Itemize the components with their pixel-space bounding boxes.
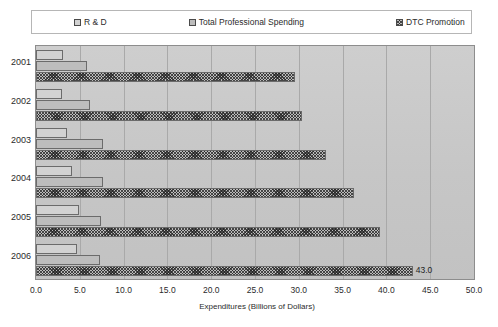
y-axis-tick-2006: 2006 [0,251,31,261]
bar-group-2003 [36,128,474,161]
y-axis-tick-2001: 2001 [0,57,31,67]
y-axis-tick-2004: 2004 [0,173,31,183]
x-axis-tick-10.0: 10.0 [115,285,132,295]
bar-2004-series-2[interactable] [36,177,103,187]
x-axis-tick-0.0: 0.0 [30,285,42,295]
x-axis-tick-40.0: 40.0 [378,285,395,295]
x-axis-title-text: Expenditures (Billions of Dollars) [199,302,315,311]
bar-2002-series-1[interactable] [36,89,62,99]
bar-2003-series-1[interactable] [36,128,67,138]
x-axis-tick-15.0: 15.0 [159,285,176,295]
legend-item-r-and-d[interactable]: R & D [74,17,107,27]
bar-2004-series-3[interactable] [36,188,354,198]
legend-item-dtc-promotion[interactable]: DTC Promotion [396,17,465,27]
x-axis-tick-30.0: 30.0 [291,285,308,295]
legend-swatch-icon-r-and-d [74,19,81,26]
x-axis-title: Expenditures (Billions of Dollars) [0,302,498,311]
bar-chart: R & D Total Professional Spending DTC Pr… [0,0,498,327]
bar-group-2006: 43.0 [36,244,474,277]
bar-group-2004 [36,166,474,199]
bar-2005-series-2[interactable] [36,216,101,226]
bar-2003-series-2[interactable] [36,139,103,149]
gridline [474,46,475,279]
x-axis-tick-35.0: 35.0 [334,285,351,295]
bar-2002-series-3[interactable] [36,111,302,121]
legend-swatch-icon-total-professional-spending [189,19,196,26]
y-axis: 200120022003200420052006 [0,45,31,280]
x-axis-tick-5.0: 5.0 [74,285,86,295]
y-axis-tick-2002: 2002 [0,96,31,106]
x-axis-tick-20.0: 20.0 [203,285,220,295]
bar-group-2001 [36,50,474,83]
bar-2006-series-2[interactable] [36,255,100,265]
legend-item-total-professional-spending[interactable]: Total Professional Spending [189,17,304,27]
bar-2002-series-2[interactable] [36,100,90,110]
bar-2003-series-3[interactable] [36,150,326,160]
x-axis-tick-45.0: 45.0 [422,285,439,295]
legend-label-total-professional-spending: Total Professional Spending [199,17,304,27]
legend-label-dtc-promotion: DTC Promotion [406,17,465,27]
y-axis-tick-2003: 2003 [0,135,31,145]
x-axis-tick-25.0: 25.0 [247,285,264,295]
x-axis-tick-50.0: 50.0 [466,285,483,295]
bar-2004-series-1[interactable] [36,166,72,176]
bar-2001-series-1[interactable] [36,50,63,60]
legend-label-r-and-d: R & D [84,17,107,27]
plot-area: 43.0 [35,45,475,280]
bar-2006-series-1[interactable] [36,244,77,254]
legend-swatch-icon-dtc-promotion [396,19,403,26]
bar-2001-series-2[interactable] [36,61,87,71]
bar-2006-series-3[interactable] [36,266,413,276]
chart-legend: R & D Total Professional Spending DTC Pr… [31,10,472,34]
y-axis-tick-2005: 2005 [0,212,31,222]
bar-2005-series-3[interactable] [36,227,380,237]
bar-group-2005 [36,205,474,238]
x-axis: 0.05.010.015.020.025.030.035.040.045.050… [0,285,498,299]
bar-2005-series-1[interactable] [36,205,79,215]
bar-group-2002 [36,89,474,122]
bar-value-label: 43.0 [416,265,433,275]
bar-2001-series-3[interactable] [36,72,295,82]
